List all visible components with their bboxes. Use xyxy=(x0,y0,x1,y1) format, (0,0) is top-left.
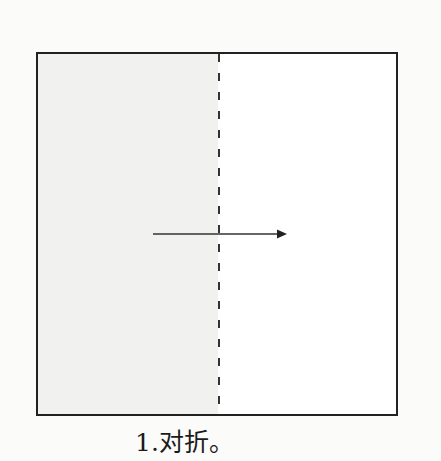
step-caption: 1.对折。 xyxy=(135,422,255,458)
arrow-right-icon xyxy=(0,0,441,461)
